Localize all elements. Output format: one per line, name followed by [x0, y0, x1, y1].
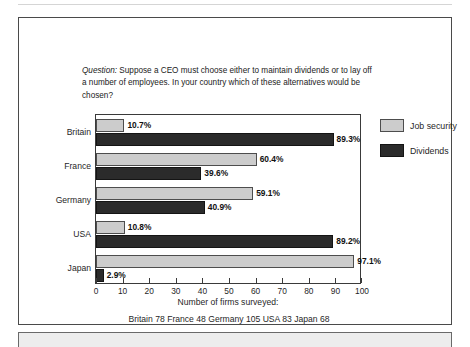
legend-item-job-security: Job security	[380, 119, 457, 132]
bar-france-dividends: 39.6%	[96, 167, 201, 180]
bar-value-label: 60.4%	[260, 154, 284, 164]
question-text: Question: Suppose a CEO must choose eith…	[82, 65, 372, 102]
x-axis-tick-label: 40	[198, 286, 207, 296]
bar-germany-dividends: 40.9%	[96, 201, 205, 214]
x-axis-tick-label: 50	[224, 286, 233, 296]
category-label-france: France	[64, 161, 91, 171]
x-axis-caption: Number of firms surveyed:	[95, 297, 361, 307]
x-axis-tick-label: 90	[331, 286, 340, 296]
bar-value-label: 89.3%	[337, 134, 361, 144]
legend-label-dividends: Dividends	[410, 146, 449, 156]
legend-label-job-security: Job security	[410, 121, 457, 131]
legend-item-dividends: Dividends	[380, 144, 457, 157]
bar-usa-job-security: 10.8%	[96, 221, 125, 234]
category-label-japan: Japan	[68, 263, 91, 273]
x-axis-tick	[256, 278, 257, 283]
bar-value-label: 10.8%	[128, 222, 152, 232]
x-axis-tick-label: 30	[171, 286, 180, 296]
legend-swatch-dividends-icon	[380, 144, 404, 157]
x-axis-tick-label: 60	[251, 286, 260, 296]
bar-germany-job-security: 59.1%	[96, 187, 253, 200]
bar-usa-dividends: 89.2%	[96, 235, 333, 248]
x-axis-tick	[282, 278, 283, 283]
x-axis-tick-label: 20	[145, 286, 154, 296]
chart-legend: Job security Dividends	[380, 119, 457, 169]
legend-swatch-job-security-icon	[380, 119, 404, 132]
bar-britain-dividends: 89.3%	[96, 133, 334, 146]
chart-bars-container: Britain10.7%89.3%France60.4%39.6%Germany…	[96, 115, 360, 283]
x-axis-tick	[309, 278, 310, 283]
x-axis-tick	[96, 278, 97, 283]
x-axis-tick	[202, 278, 203, 283]
figure-panel: Question: Suppose a CEO must choose eith…	[18, 17, 452, 325]
chart-plot-area: Britain10.7%89.3%France60.4%39.6%Germany…	[95, 114, 361, 284]
x-axis-tick	[335, 278, 336, 283]
bar-value-label: 10.7%	[127, 120, 151, 130]
bar-value-label: 59.1%	[256, 188, 280, 198]
category-label-britain: Britain	[67, 127, 91, 137]
x-axis-tick	[176, 278, 177, 283]
bar-value-label: 40.9%	[208, 202, 232, 212]
firms-surveyed-note: Britain 78 France 48 Germany 105 USA 83 …	[59, 314, 399, 324]
next-figure-panel-partial	[18, 332, 452, 347]
x-axis-tick-label: 100	[355, 286, 369, 296]
question-body: Suppose a CEO must choose either to main…	[82, 66, 372, 100]
x-axis-tick-label: 80	[304, 286, 313, 296]
bar-value-label: 89.2%	[336, 236, 360, 246]
question-label: Question:	[82, 66, 117, 75]
bar-britain-job-security: 10.7%	[96, 119, 124, 132]
bar-japan-job-security: 97.1%	[96, 255, 354, 268]
x-axis-tick	[123, 278, 124, 283]
x-axis-tick-label: 10	[118, 286, 127, 296]
x-axis-tick-label: 70	[278, 286, 287, 296]
x-axis-tick	[149, 278, 150, 283]
x-axis-tick	[361, 278, 362, 283]
bar-japan-dividends: 2.9%	[96, 269, 104, 282]
x-axis-tick-label: 0	[94, 286, 99, 296]
category-label-usa: USA	[73, 229, 91, 239]
page-top-rule	[18, 4, 452, 5]
x-axis-tick	[229, 278, 230, 283]
category-label-germany: Germany	[56, 195, 91, 205]
bar-value-label: 97.1%	[357, 256, 381, 266]
bar-france-job-security: 60.4%	[96, 153, 257, 166]
bar-value-label: 39.6%	[204, 168, 228, 178]
